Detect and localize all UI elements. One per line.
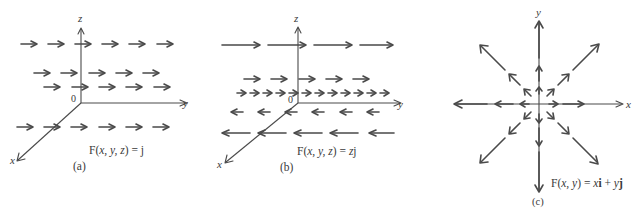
vector-arrow-icon: [495, 101, 513, 107]
vector-arrow-icon: [520, 101, 529, 107]
vector-arrow-icon: [360, 42, 393, 48]
vector-arrow-icon: [380, 90, 389, 96]
vector-arrow-icon: [21, 41, 37, 47]
vector-arrow-icon: [250, 90, 259, 96]
vector-arrow-icon: [258, 130, 286, 136]
vector-arrow-icon: [222, 42, 260, 48]
vector-arrow-icon: [536, 128, 542, 146]
caption-a: (a): [73, 160, 86, 173]
vector-arrow-icon: [536, 66, 542, 81]
vector-arrow-icon: [276, 90, 285, 96]
vector-arrow-icon: [547, 112, 554, 119]
vector-arrow-icon: [547, 89, 554, 96]
vector-arrow-icon: [72, 84, 88, 90]
vector-arrow-icon: [509, 74, 520, 85]
vector-arrow-icon: [126, 84, 142, 90]
vector-arrow-icon: [454, 100, 487, 108]
vector-arrow-icon: [341, 90, 350, 96]
vector-arrow-icon: [294, 130, 322, 136]
y-axis-label: y: [397, 98, 403, 110]
vector-arrow-icon: [509, 123, 520, 134]
x-axis-label: x: [9, 154, 15, 166]
vector-arrow-icon: [330, 130, 358, 136]
panel-b-vectors: [222, 42, 394, 136]
vector-arrow-icon: [367, 90, 376, 96]
vector-arrow-icon: [573, 44, 599, 70]
vector-arrow-icon: [48, 41, 64, 47]
vector-arrow-icon: [237, 90, 246, 96]
vector-arrow-icon: [61, 70, 77, 76]
vector-arrow-icon: [558, 123, 569, 134]
vector-arrow-icon: [116, 70, 132, 76]
vector-arrow-icon: [222, 130, 250, 136]
vector-arrow-icon: [536, 87, 542, 94]
vector-arrow-icon: [302, 90, 311, 96]
vector-arrow-icon: [153, 124, 169, 130]
vector-arrow-icon: [271, 76, 287, 82]
panel-b: z y x 0: [216, 12, 403, 174]
panel-a-axes: [17, 28, 187, 161]
vector-arrow-icon: [231, 109, 243, 115]
vector-arrow-icon: [285, 109, 297, 115]
x-axis: [18, 103, 81, 160]
vector-arrow-icon: [536, 114, 542, 123]
vector-arrow-icon: [367, 109, 379, 115]
vector-arrow-icon: [157, 41, 173, 47]
vector-arrow-icon: [326, 76, 342, 82]
vector-arrow-icon: [353, 76, 369, 82]
formula-a: F(x, y, z) = j: [89, 144, 144, 157]
vector-arrow-icon: [102, 41, 118, 47]
vector-arrow-icon: [268, 42, 306, 48]
panel-a: z y x 0: [9, 12, 188, 173]
vector-arrow-icon: [535, 152, 543, 192]
panel-c-vectors: [454, 21, 599, 192]
vector-arrow-icon: [558, 74, 569, 85]
vector-arrow-icon: [535, 21, 543, 58]
vector-arrow-icon: [154, 84, 170, 90]
vector-arrow-icon: [549, 101, 558, 107]
origin-label: 0: [71, 93, 76, 104]
vector-arrow-icon: [75, 41, 91, 47]
vector-arrow-icon: [258, 109, 270, 115]
vector-arrow-icon: [312, 109, 324, 115]
panel-a-vectors: [17, 41, 173, 130]
vector-arrow-icon: [244, 76, 260, 82]
vector-field-figure: z y x 0: [0, 0, 641, 215]
vector-arrow-icon: [314, 42, 352, 48]
origin-label: 0: [288, 94, 293, 105]
vector-arrow-icon: [17, 124, 33, 130]
panel-b-axes: [225, 27, 401, 163]
vector-arrow-icon: [524, 89, 531, 96]
vector-arrow-icon: [369, 130, 394, 136]
vector-arrow-icon: [340, 109, 352, 115]
z-axis-label: z: [293, 12, 299, 24]
vector-arrow-icon: [328, 90, 337, 96]
vector-arrow-icon: [129, 41, 145, 47]
vector-arrow-icon: [524, 112, 531, 119]
vector-arrow-icon: [71, 124, 87, 130]
vector-arrow-icon: [573, 138, 598, 164]
x-axis-label: x: [216, 158, 222, 170]
x-axis-label: x: [625, 98, 631, 110]
vector-arrow-icon: [99, 84, 115, 90]
vector-arrow-icon: [480, 138, 505, 163]
vector-arrow-icon: [315, 90, 324, 96]
vector-arrow-icon: [34, 70, 50, 76]
caption-b: (b): [280, 161, 294, 174]
y-axis-label: y: [182, 97, 188, 109]
vector-arrow-icon: [263, 90, 272, 96]
formula-c: F(x, y) = xi + yj: [551, 177, 623, 190]
formula-b: F(x, y, z) = zj: [297, 145, 357, 158]
z-axis-label: z: [77, 12, 83, 24]
vector-arrow-icon: [354, 90, 363, 96]
y-axis-label: y: [535, 6, 541, 18]
vector-arrow-icon: [143, 70, 159, 76]
vector-arrow-icon: [99, 124, 115, 130]
vector-arrow-icon: [480, 45, 505, 70]
vector-arrow-icon: [563, 101, 584, 107]
vector-arrow-icon: [299, 76, 315, 82]
vector-arrow-icon: [89, 70, 105, 76]
panel-c: y x: [454, 6, 631, 208]
vector-arrow-icon: [126, 124, 142, 130]
caption-c: (c): [532, 196, 544, 208]
